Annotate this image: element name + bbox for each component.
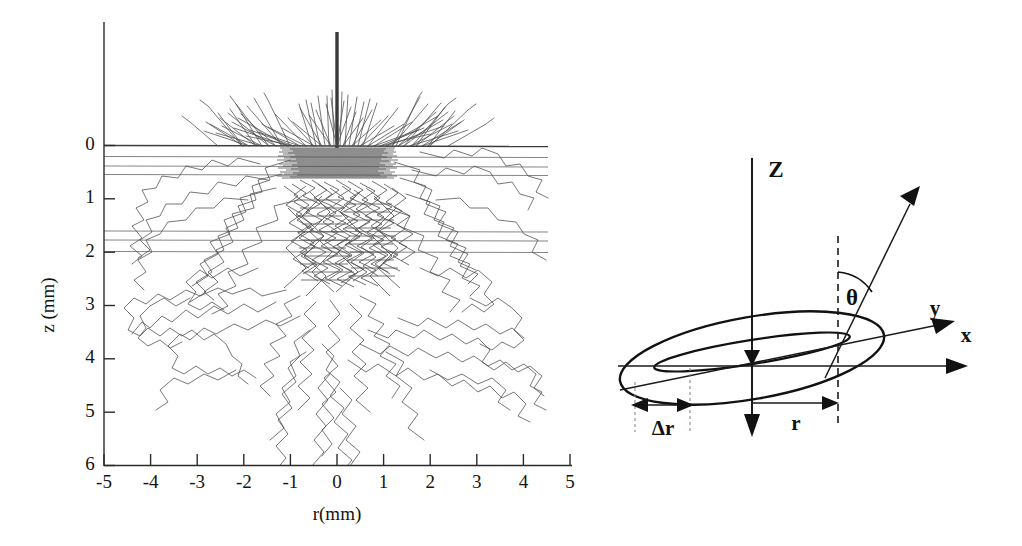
x-axis: -5 -4 -3 -2 -1 0 1 2 3 4 5 r(mm) <box>96 454 575 525</box>
r-dimension: r <box>752 396 839 435</box>
y-axis: 0 1 2 3 4 5 6 z (mm) <box>37 22 115 474</box>
x-tick-label-2: 2 <box>425 471 435 492</box>
delta-r-right-arrowhead <box>677 398 694 412</box>
y-tick-label-6: 6 <box>85 453 95 474</box>
x-axis-arrow: x <box>618 323 972 374</box>
y-tick-label-5: 5 <box>85 400 95 421</box>
y-axis-label: z (mm) <box>37 277 59 332</box>
y-tick-label-2: 2 <box>85 240 95 261</box>
photon-trajectories <box>124 90 548 498</box>
r-label: r <box>791 411 800 435</box>
x-tick-label-1: 1 <box>379 471 389 492</box>
coordinate-diagram-panel: Z x y <box>600 0 1022 546</box>
y-axis-arrowhead <box>931 318 955 334</box>
y-tick-label-0: 0 <box>85 133 95 154</box>
x-tick-label--1: -1 <box>282 471 298 492</box>
ray-arrowhead <box>900 186 920 206</box>
deep-diffuse-paths <box>124 268 546 498</box>
y-axis-arrow: y <box>620 296 955 390</box>
x-tick-label-0: 0 <box>332 471 342 492</box>
x-tick-label-3: 3 <box>472 471 482 492</box>
delta-r-left-arrowhead <box>631 398 648 412</box>
y-tick-label-4: 4 <box>85 346 95 367</box>
dense-scatter-core <box>284 180 415 296</box>
x-tick-label--2: -2 <box>236 471 252 492</box>
figure-root: 0 1 2 3 4 5 6 z (mm) <box>0 0 1022 546</box>
r-dimension-arrowhead <box>822 396 839 410</box>
y-axis-label: y <box>930 296 941 320</box>
far-field-paths <box>138 298 524 410</box>
monte-carlo-trajectory-panel: 0 1 2 3 4 5 6 z (mm) <box>0 0 600 546</box>
x-tick-label--5: -5 <box>96 471 112 492</box>
delta-r-label: Δr <box>652 416 675 440</box>
theta-label: θ <box>846 285 858 310</box>
coordinate-diagram-svg: Z x y <box>600 0 1022 546</box>
dense-surface-slab <box>277 148 398 178</box>
x-tick-label-5: 5 <box>565 471 575 492</box>
z-axis-arrowhead <box>744 414 760 437</box>
x-tick-label--3: -3 <box>189 471 205 492</box>
y-tick-label-3: 3 <box>85 293 95 314</box>
x-axis-label: r(mm) <box>313 503 362 525</box>
x-axis-arrowhead <box>946 358 968 374</box>
x-axis-label: x <box>961 323 972 347</box>
x-tick-label--4: -4 <box>143 471 159 492</box>
z-axis-label: Z <box>768 157 783 182</box>
x-tick-label-4: 4 <box>519 471 529 492</box>
trajectory-plot-svg: 0 1 2 3 4 5 6 z (mm) <box>0 0 600 546</box>
photon-direction-ray <box>825 186 920 378</box>
y-tick-label-1: 1 <box>85 186 95 207</box>
